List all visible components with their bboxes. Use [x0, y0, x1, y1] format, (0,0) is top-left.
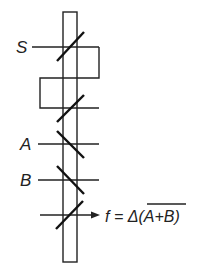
output-label: f = Δ(A+B): [105, 208, 180, 225]
output-prefix: f = Δ(: [105, 208, 145, 225]
label-s: S: [16, 38, 28, 57]
loop-path: [40, 47, 99, 108]
label-b: B: [20, 171, 31, 190]
label-a: A: [19, 135, 31, 154]
output-suffix: ): [172, 208, 179, 225]
output-overbar-term: A+B: [143, 208, 175, 225]
arrow-icon: [91, 212, 100, 219]
logic-diagram: S A B f = Δ(A+B): [0, 0, 205, 263]
vertical-bar: [63, 12, 77, 262]
